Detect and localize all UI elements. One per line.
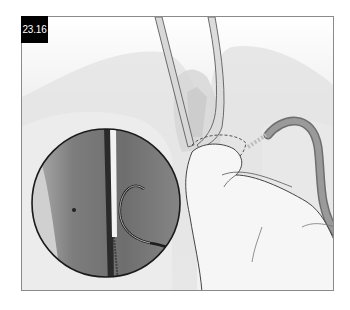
surgical-illustration	[21, 16, 334, 291]
illustration-drawing	[22, 17, 334, 291]
figure-number-label: 23.16	[21, 16, 48, 43]
